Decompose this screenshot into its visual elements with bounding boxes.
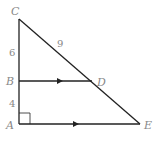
label-e: E: [143, 119, 152, 132]
length-cb: 6: [9, 47, 15, 58]
label-d: D: [96, 76, 106, 89]
label-a: A: [5, 119, 14, 132]
label-c: C: [11, 5, 20, 18]
segment-ce: [19, 19, 140, 124]
length-cd: 9: [57, 38, 63, 49]
label-b: B: [5, 75, 14, 88]
triangle-diagram: C B A D E 6 4 9: [0, 0, 158, 141]
length-ba: 4: [9, 98, 15, 109]
parallel-arrow-bd-icon: [57, 78, 63, 84]
parallel-arrow-ae-icon: [73, 121, 79, 127]
right-angle-marker: [19, 113, 30, 124]
